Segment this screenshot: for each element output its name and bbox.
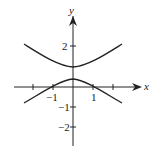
x-axis-label: x [143,80,149,92]
graph-svg: y x −1 1 2 −1 −2 [0,0,155,156]
y-axis-label: y [68,4,74,16]
x-tick-label-neg1: −1 [46,91,58,103]
y-tick-label-neg1: −1 [58,101,70,113]
x-tick-label-1: 1 [91,91,97,103]
y-tick-label-neg2: −2 [58,121,70,133]
y-tick-label-2: 2 [62,40,68,52]
hyperbola-graph: y x −1 1 2 −1 −2 [0,0,155,156]
